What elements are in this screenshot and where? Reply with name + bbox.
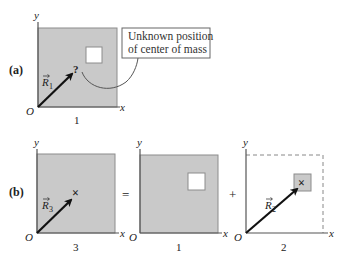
origin-label: O bbox=[25, 231, 33, 243]
svg-text:R: R bbox=[41, 199, 49, 211]
svg-text:1: 1 bbox=[49, 82, 53, 91]
plate-label: 2 bbox=[281, 241, 287, 253]
callout-line-2: of center of mass bbox=[128, 43, 207, 55]
x-axis-label: x bbox=[119, 101, 125, 113]
callout-line-1: Unknown position bbox=[128, 30, 214, 43]
svg-text:2: 2 bbox=[272, 205, 276, 214]
svg-text:R: R bbox=[264, 199, 272, 211]
x-axis-label: x bbox=[328, 227, 334, 239]
panel-b-middle: y x O 1 bbox=[129, 136, 228, 253]
panel-b: (b) y x O 3 R 3 × = y bbox=[9, 136, 334, 253]
svg-text:R: R bbox=[41, 76, 49, 88]
origin-label: O bbox=[129, 231, 137, 243]
x-axis-label: x bbox=[222, 227, 228, 239]
plate-label: 1 bbox=[74, 114, 80, 126]
unknown-marker: ? bbox=[73, 63, 79, 75]
panel-a-label: (a) bbox=[9, 63, 23, 77]
plate-label: 3 bbox=[73, 241, 79, 253]
plus-sign: + bbox=[229, 187, 236, 202]
panel-b-right: y x O 2 R 2 × bbox=[234, 136, 334, 253]
y-axis-label: y bbox=[33, 136, 39, 148]
center-of-mass-marker: × bbox=[72, 186, 79, 200]
center-of-mass-diagram: (a) y x O 1 R 1 ? Unknown position of ce… bbox=[0, 0, 346, 255]
y-axis-label: y bbox=[136, 136, 142, 148]
panel-a: (a) y x O 1 R 1 ? Unknown position of ce… bbox=[9, 9, 214, 126]
plate-label: 1 bbox=[176, 241, 182, 253]
equals-sign: = bbox=[122, 187, 129, 202]
origin-label: O bbox=[26, 105, 34, 117]
x-axis-label: x bbox=[119, 227, 125, 239]
origin-label: O bbox=[234, 231, 242, 243]
center-of-mass-marker: × bbox=[298, 176, 305, 190]
y-axis-label: y bbox=[242, 136, 248, 148]
square-hole bbox=[188, 173, 205, 190]
square-hole bbox=[86, 47, 102, 63]
panel-b-label: (b) bbox=[9, 185, 24, 199]
y-axis-label: y bbox=[33, 9, 39, 21]
panel-b-left: y x O 3 R 3 × bbox=[25, 136, 125, 253]
plate-with-hole bbox=[140, 155, 218, 233]
svg-text:3: 3 bbox=[49, 205, 53, 214]
dashed-outline bbox=[246, 155, 323, 233]
